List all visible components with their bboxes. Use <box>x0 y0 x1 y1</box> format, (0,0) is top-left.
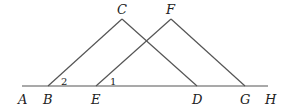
label-B: B <box>42 92 53 107</box>
segment-FG <box>171 19 245 86</box>
geometry-diagram: C F A B E D G H 2 1 <box>0 0 292 108</box>
label-F: F <box>165 2 176 17</box>
angle-2-label: 2 <box>61 76 67 87</box>
label-H: H <box>264 92 277 107</box>
label-C: C <box>117 2 127 17</box>
label-A: A <box>17 92 27 107</box>
angle-1-label: 1 <box>110 76 116 87</box>
label-D: D <box>191 92 203 107</box>
label-E: E <box>90 92 101 107</box>
label-G: G <box>240 92 250 107</box>
